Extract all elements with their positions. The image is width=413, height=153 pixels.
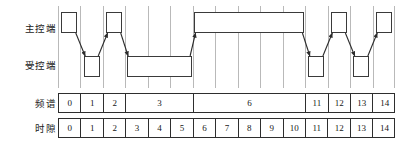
timeslot-cell: 3 <box>126 119 148 137</box>
row-label-slave: 受控端 <box>14 61 56 71</box>
row-label-timeslot: 时隙 <box>22 124 56 134</box>
spectrum-cell: 11 <box>306 94 328 112</box>
timeslot-cell: 1 <box>81 119 103 137</box>
timeslot-cell: 9 <box>261 119 283 137</box>
timeslot-cell: 14 <box>373 119 395 137</box>
transition-arrow <box>98 33 107 56</box>
spectrum-cell: 3 <box>126 94 193 112</box>
timeslot-cell: 4 <box>149 119 171 137</box>
spectrum-cell: 12 <box>329 94 351 112</box>
spectrum-cell: 14 <box>373 94 395 112</box>
timeslot-cell: 12 <box>328 119 350 137</box>
frequency-hopping-timing-diagram: 主控端 受控端 频谱 时隙 0123611121314 012345678910… <box>0 0 413 153</box>
spectrum-cell: 0 <box>59 94 81 112</box>
timeslot-cell: 8 <box>239 119 261 137</box>
spectrum-cell: 13 <box>351 94 373 112</box>
transition-arrow <box>345 33 354 56</box>
spectrum-cell: 1 <box>81 94 103 112</box>
timeslot-cell: 5 <box>171 119 193 137</box>
transition-arrow <box>323 33 332 56</box>
timeslot-cell: 10 <box>284 119 306 137</box>
timeslot-cell: 6 <box>194 119 216 137</box>
timeslot-cell: 13 <box>351 119 373 137</box>
transition-arrow <box>121 33 128 56</box>
transition-arrow <box>368 33 377 56</box>
timeslot-cell: 11 <box>306 119 328 137</box>
transition-arrow <box>190 33 195 56</box>
row-label-spectrum: 频谱 <box>22 99 56 109</box>
timeslot-cell: 2 <box>104 119 126 137</box>
spectrum-table: 0123611121314 <box>58 93 395 113</box>
timeslot-cell: 0 <box>59 119 81 137</box>
transition-arrow <box>76 33 85 56</box>
spectrum-cell: 2 <box>104 94 126 112</box>
transition-arrow-group <box>58 6 395 88</box>
row-label-master: 主控端 <box>14 24 56 34</box>
timeslot-cell: 7 <box>216 119 238 137</box>
transition-arrow <box>302 33 309 56</box>
timeslot-table: 01234567891011121314 <box>58 118 395 138</box>
spectrum-cell: 6 <box>194 94 306 112</box>
timing-diagram-plot <box>58 6 395 88</box>
